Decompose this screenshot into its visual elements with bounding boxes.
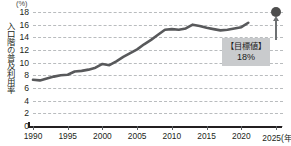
- y-axis-tick-label: 14: [5, 32, 29, 42]
- series-line-layer: [33, 12, 283, 126]
- x-axis-tick-label: 1995: [58, 131, 77, 141]
- x-axis-tick: [207, 126, 208, 130]
- x-axis-tick: [172, 126, 173, 130]
- x-axis-tick: [68, 126, 69, 130]
- x-axis-tick: [241, 126, 242, 130]
- y-axis-tick-label: 16: [5, 20, 29, 30]
- x-axis-line: [28, 126, 282, 128]
- x-axis-tick: [33, 126, 34, 130]
- x-axis-tick-label: 1990: [24, 131, 43, 141]
- y-axis-tick-label: 0: [5, 121, 29, 131]
- x-axis-tick-label: 2000: [93, 131, 112, 141]
- target-arrow-stem: [275, 18, 277, 40]
- target-callout-title: 【目標値】: [226, 42, 266, 52]
- x-axis-tick-label: 2020: [232, 131, 251, 141]
- x-axis-tick: [102, 126, 103, 130]
- y-axis-tick-label: 12: [5, 45, 29, 55]
- y-axis-tick-label: 8: [5, 70, 29, 80]
- x-axis-tick-label: 2015: [197, 131, 216, 141]
- x-axis-tick-label: 2010: [163, 131, 182, 141]
- y-axis-tick-label: 2: [5, 108, 29, 118]
- y-axis-tick-label: 4: [5, 96, 29, 106]
- y-axis-tick-label: 10: [5, 58, 29, 68]
- x-axis-origin-cap: [28, 122, 30, 128]
- chart-root: (%) 入口階の普及利用率 181614121086420 1990199520…: [0, 0, 291, 146]
- series-line: [33, 23, 248, 81]
- y-axis-tick-label: 6: [5, 83, 29, 93]
- x-axis-tick-label: 2005: [128, 131, 147, 141]
- y-axis-tick-labels: 181614121086420: [5, 12, 29, 126]
- y-axis-tick-label: 18: [5, 7, 29, 17]
- x-axis-tick-label: 2025(年度): [262, 131, 291, 143]
- x-axis-tick: [137, 126, 138, 130]
- plot-area: [33, 12, 283, 126]
- target-callout-value: 18%: [237, 52, 255, 63]
- target-callout-box: 【目標値】 18%: [222, 38, 270, 66]
- x-axis-tick: [276, 126, 277, 130]
